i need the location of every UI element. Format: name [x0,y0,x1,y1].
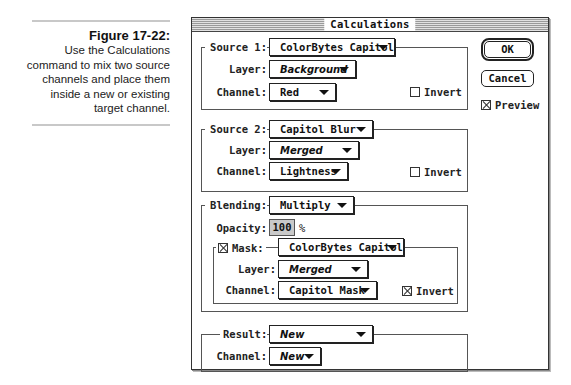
preview-label: Preview [495,99,539,111]
cancel-button[interactable]: Cancel [481,70,534,87]
source1-layer-popup[interactable]: Background [269,60,356,78]
chevron-down-icon [342,148,352,153]
checkbox-unchecked-icon [410,167,420,177]
mask-layer-popup[interactable]: Merged [278,260,368,278]
checkbox-checked-icon [481,100,491,110]
mask-layer-label: Layer: [214,262,276,276]
mask-invert-label: Invert [416,285,454,297]
blending-label: Blending: [205,198,267,212]
chevron-down-icon [337,203,347,208]
opacity-input[interactable]: 100 [269,219,295,236]
source1-channel-popup[interactable]: Red [269,83,336,101]
source2-invert-checkbox[interactable]: Invert [410,166,462,178]
checkbox-checked-icon [218,243,228,253]
chevron-down-icon [387,245,397,250]
source1-invert-checkbox[interactable]: Invert [410,86,462,98]
source2-layer-value: Merged [280,145,323,156]
source1-layer-value: Background [280,64,347,75]
source2-channel-label: Channel: [205,164,267,178]
preview-checkbox[interactable]: Preview [481,99,539,111]
chevron-down-icon [356,332,366,337]
chevron-down-icon [360,288,370,293]
source1-label: Source 1: [205,40,267,54]
source1-layer-label: Layer: [205,62,267,76]
source2-document-value: Capitol Blur [280,123,356,135]
checkbox-checked-icon [402,286,412,296]
source2-invert-label: Invert [424,166,462,178]
result-channel-label: Channel: [205,349,267,363]
mask-invert-checkbox[interactable]: Invert [402,285,454,297]
result-channel-popup[interactable]: New [269,347,321,365]
mask-channel-popup[interactable]: Capitol Mask [278,281,377,299]
mask-channel-label: Channel: [214,283,276,297]
source1-document-popup[interactable]: ColorBytes Capitol [269,38,395,56]
chevron-down-icon [331,169,341,174]
source2-document-popup[interactable]: Capitol Blur [269,120,373,138]
chevron-down-icon [351,267,361,272]
opacity-unit: % [299,221,305,235]
calculations-dialog: Calculations Source 1: ColorBytes Capito… [191,17,549,370]
result-channel-value: New [280,351,304,362]
mask-label: Mask: [232,242,264,254]
result-label: Result: [220,327,267,341]
chevron-down-icon [319,90,329,95]
blending-mode-popup[interactable]: Multiply [269,196,354,214]
source2-layer-label: Layer: [205,143,267,157]
figure-caption: Figure 17-22: Use the Calculations comma… [20,20,170,126]
checkbox-unchecked-icon [410,87,420,97]
mask-document-popup[interactable]: ColorBytes Capitol [278,238,404,256]
source2-label: Source 2: [205,122,267,136]
chevron-down-icon [378,45,388,50]
result-document-value: New [280,329,304,340]
source2-channel-popup[interactable]: Lightness [269,162,348,180]
title-bar[interactable]: Calculations [192,18,548,32]
source1-channel-value: Red [280,86,299,98]
dialog-title: Calculations [324,18,415,31]
mask-channel-value: Capitol Mask [289,284,365,296]
source2-channel-value: Lightness [280,165,337,177]
opacity-label: Opacity: [205,221,267,235]
source2-layer-popup[interactable]: Merged [269,141,359,159]
source2-group [201,129,468,192]
mask-layer-value: Merged [289,264,332,275]
figure-title: Figure 17-22: [20,28,170,43]
chevron-down-icon [339,67,349,72]
caption-top-rule [32,20,170,22]
chevron-down-icon [304,354,314,359]
source1-document-value: ColorBytes Capitol [280,41,394,53]
caption-bottom-rule [32,124,170,126]
source1-channel-label: Channel: [205,85,267,99]
chevron-down-icon [356,127,366,132]
blending-mode-value: Multiply [280,199,331,211]
source1-invert-label: Invert [424,86,462,98]
mask-document-value: ColorBytes Capitol [289,241,403,253]
figure-description: Use the Calculations command to mix two … [20,43,170,116]
ok-button[interactable]: OK [484,41,531,58]
result-document-popup[interactable]: New [269,325,373,343]
mask-checkbox[interactable]: Mask: [216,242,266,254]
